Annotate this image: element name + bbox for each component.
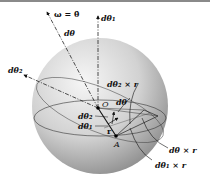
- d-theta-2-inner-label: dθ₂: [78, 111, 93, 121]
- d-theta-2-label: dθ₂: [8, 65, 23, 75]
- d-theta-inner-label: dθ: [116, 97, 128, 107]
- d-theta-label: dθ: [64, 28, 76, 38]
- d-theta-1-inner-label: dθ₁: [78, 121, 92, 131]
- sphere-diagram: ω = θ̇ dθ dθ₁ dθ₂ O dθ dθ₂ × r dθ₂ dθ₁ r…: [0, 0, 210, 182]
- sphere: [32, 38, 168, 174]
- d-theta-cross-r-label: dθ × r: [169, 145, 197, 155]
- d-theta1-cross-r-label: dθ₁ × r: [155, 160, 187, 170]
- omega-label: ω = θ̇: [54, 9, 80, 19]
- d-theta-1-label: dθ₁: [101, 13, 115, 23]
- point-a: [114, 134, 118, 138]
- origin-label: O: [102, 100, 109, 109]
- d-theta2-cross-r-label: dθ₂ × r: [107, 79, 139, 89]
- point-a-label: A: [113, 140, 120, 149]
- origin-point: [96, 106, 100, 110]
- figure-canvas: ω = θ̇ dθ dθ₁ dθ₂ O dθ dθ₂ × r dθ₂ dθ₁ r…: [0, 0, 210, 182]
